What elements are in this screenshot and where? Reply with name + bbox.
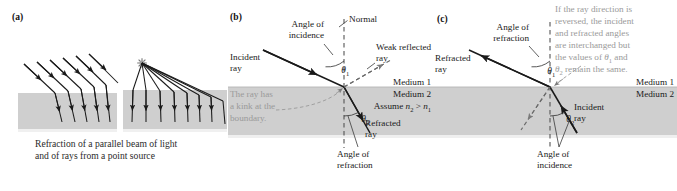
- panel-c-theta2: θ2: [552, 104, 574, 136]
- weak-reflected-leader-b: [367, 63, 375, 69]
- panel-b-medium-2-label: Medium 2: [338, 89, 431, 100]
- panel-c-medium-2-label: Medium 2: [573, 89, 674, 100]
- panel-c-angle-of-incidence-line2: incidence: [537, 160, 572, 171]
- panel-c-annotation-line3: and refracted angles: [555, 28, 629, 39]
- panel-a-caption-line2: and of rays from a point source: [35, 150, 155, 162]
- medium-slab-left: [18, 93, 117, 131]
- figure-23-15: (a): [0, 0, 677, 191]
- panel-c-medium-1-label: Medium 1: [573, 77, 674, 88]
- panel-c-annotation-line2: reversed, the incident: [555, 16, 634, 27]
- panel-c-incident-ray-line2: ray: [574, 113, 586, 124]
- panel-a: (a): [0, 0, 228, 191]
- panel-b-refracted-ray-line1: Refracted: [365, 118, 401, 129]
- panel-b-refracted-ray-line2: ray: [365, 129, 377, 140]
- aoi-leader-b: [324, 44, 333, 55]
- panel-c-angle-of-refraction-line1: Angle of: [465, 22, 529, 33]
- panel-b-angle-of-incidence-line1: Angle of: [262, 19, 324, 30]
- panel-a-caption-line1: Refraction of a parallel beam of light: [35, 138, 177, 150]
- slab-right-underline: [123, 129, 227, 132]
- panel-c-refracted-ray-line2: ray: [435, 64, 447, 75]
- incident-ray-arrow-b: [263, 50, 317, 75]
- panel-c-theta1: θ1: [533, 56, 555, 88]
- panel-c-refracted-ray-line1: Refracted: [435, 53, 471, 64]
- panel-b-annotation-line1: The ray has: [230, 89, 273, 100]
- panel-b-assume-label: Assume n2 > n1: [326, 101, 431, 115]
- panel-c-annotation-line4: are interchanged but: [555, 40, 630, 51]
- panel-b-angle-of-refraction-line2: refraction: [337, 160, 373, 171]
- panel-b-medium-1-label: Medium 1: [338, 77, 431, 88]
- panel-c: (c): [433, 0, 677, 191]
- panel-b-annotation-line3: boundary.: [230, 113, 266, 124]
- panel-c-angle-of-incidence-line1: Angle of: [537, 149, 569, 160]
- panel-b-incident-ray-line1: Incident: [230, 52, 260, 63]
- normal-leader-b: [339, 21, 348, 28]
- panel-a-diagram: [0, 0, 228, 191]
- slab-left-underline: [18, 129, 117, 132]
- figure-caption: FIGURE 23.15Refraction of light rays.: [8, 168, 268, 191]
- medium-2-underline-b: [228, 135, 433, 138]
- annotation-arrow-c: [555, 79, 564, 86]
- panel-b-weak-reflected-line2: ray: [376, 53, 388, 64]
- panel-b-annotation-line2: a kink at the: [230, 101, 275, 112]
- panel-c-annotation-line6: θ2 remain the same.: [555, 64, 628, 78]
- panel-b-angle-of-refraction-line1: Angle of: [337, 149, 369, 160]
- panel-b: (b): [228, 0, 433, 191]
- panel-b-incident-ray-line2: ray: [230, 63, 242, 74]
- panel-b-weak-reflected-line1: Weak reflected: [376, 42, 431, 53]
- panel-c-incident-ray-line1: Incident: [574, 102, 604, 113]
- panel-c-angle-of-refraction-line2: refraction: [465, 33, 529, 44]
- panel-b-normal-label: Normal: [349, 14, 377, 25]
- panel-b-angle-of-incidence-line2: incidence: [262, 30, 324, 41]
- panel-c-annotation-line1: If the ray direction is: [555, 4, 632, 15]
